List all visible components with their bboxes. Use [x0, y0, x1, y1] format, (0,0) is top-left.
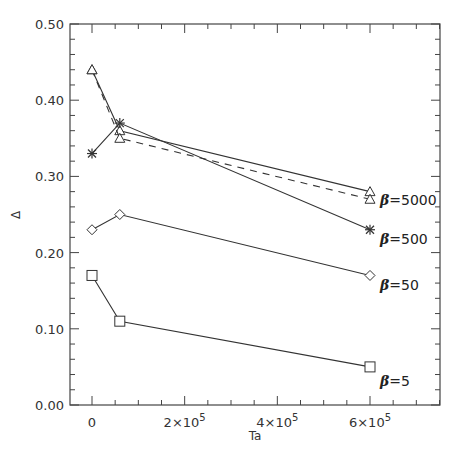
diamond-marker-icon	[115, 210, 125, 220]
series-lines	[87, 65, 375, 372]
x-axis: 02×1054×1056×105	[88, 24, 440, 430]
series-label-value: =5000	[389, 192, 436, 208]
triangle-marker-icon	[87, 65, 97, 74]
x-tick-label: 4×105	[256, 412, 298, 430]
x-tick-label: 2×105	[164, 412, 206, 430]
series-label: β=5000	[379, 192, 437, 208]
x-tick-label: 0	[88, 415, 96, 430]
y-tick-label: 0.30	[35, 169, 64, 184]
y-tick-label: 0.50	[35, 17, 64, 32]
series-label-value: =50	[389, 277, 419, 293]
series-line	[92, 70, 370, 192]
series-label-value: =500	[389, 231, 427, 247]
y-tick-label: 0.20	[35, 246, 64, 261]
asterisk-marker-icon	[87, 149, 97, 159]
square-marker-icon	[365, 362, 375, 372]
x-tick-exponent: 5	[385, 412, 391, 423]
x-tick-exponent: 5	[292, 412, 298, 423]
square-marker-icon	[115, 316, 125, 326]
y-axis: 0.000.100.200.300.400.50	[35, 17, 440, 413]
x-tick-exponent: 5	[199, 412, 205, 423]
series-3	[87, 210, 375, 281]
square-marker-icon	[87, 270, 97, 280]
y-tick-label: 0.10	[35, 322, 64, 337]
diamond-marker-icon	[87, 225, 97, 235]
x-axis-title: Ta	[248, 429, 262, 443]
series-label-value: =5	[389, 373, 410, 389]
x-tick-label: 6×105	[349, 412, 391, 430]
series-line	[92, 123, 370, 230]
series-line	[92, 215, 370, 276]
y-axis-title: Δ	[9, 210, 23, 219]
series-0	[87, 65, 375, 196]
y-tick-label: 0.00	[35, 398, 64, 413]
diamond-marker-icon	[365, 270, 375, 280]
series-line	[92, 275, 370, 366]
series-label: β=50	[379, 277, 419, 293]
line-chart: 02×1054×1056×105 0.000.100.200.300.400.5…	[0, 0, 465, 460]
asterisk-marker-icon	[115, 118, 125, 128]
series-label: β=500	[379, 231, 428, 247]
y-tick-label: 0.40	[35, 93, 64, 108]
series-label: β=5	[379, 373, 410, 389]
series-4	[87, 270, 375, 371]
asterisk-marker-icon	[365, 225, 375, 235]
series-labels: β=5000β=500β=50β=5	[379, 192, 437, 389]
